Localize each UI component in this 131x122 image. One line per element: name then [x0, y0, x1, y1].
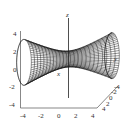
hyperboloid-plot: z x y 4 2 0 -2 -4 -4 -2 0 2 4 4 2 0 -2 -…	[0, 0, 131, 122]
x-tick-labels: -4 -2 0 2 4	[20, 112, 95, 120]
x-axis-label: x	[56, 70, 61, 78]
x-tick: 0	[57, 112, 61, 120]
y-tick-labels: 4 2 0 -2 -4	[102, 83, 120, 113]
z-tick: 2	[13, 48, 17, 56]
z-tick-labels: 4 2 0 -2 -4	[9, 30, 17, 109]
z-tick: -2	[9, 83, 15, 91]
x-tick: -4	[20, 112, 26, 120]
surface-mesh	[17, 33, 120, 86]
z-tick: 4	[13, 30, 17, 38]
z-tick: -4	[9, 101, 15, 109]
x-tick: 4	[91, 112, 95, 120]
x-tick: -2	[38, 112, 44, 120]
z-axis-label: z	[65, 11, 69, 19]
y-axis-label: y	[113, 55, 118, 63]
z-tick: 0	[13, 66, 17, 74]
x-tick: 2	[74, 112, 78, 120]
y-tick: -4	[114, 83, 120, 91]
